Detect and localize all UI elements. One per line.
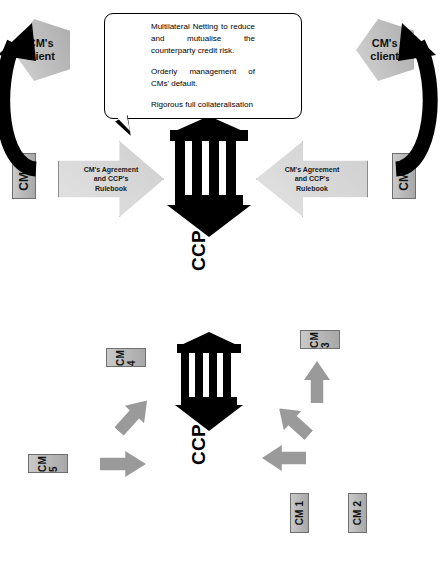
left-ccp-temple-icon: [174, 331, 244, 431]
benefits-callout: Multilateral Netting to reduce and mutua…: [104, 13, 302, 119]
temple-columns: [181, 353, 237, 397]
temple-shaft: [181, 397, 237, 407]
temple-roof: [175, 405, 243, 431]
right-ccp-temple-icon: [166, 117, 252, 237]
callout-item-3: Rigorous full collateralisation: [151, 99, 255, 111]
callout-text-group: Multilateral Netting to reduce and mutua…: [151, 21, 255, 111]
left-cm1-box[interactable]: CM 1: [290, 493, 309, 533]
left-panel-ccp-members: CCP CM 1 CM 2 CM 3 CM 4 CM 5: [0, 295, 447, 563]
left-cm5-box[interactable]: CM 5: [28, 454, 68, 473]
left-cm2-box[interactable]: CM 2: [348, 493, 367, 533]
left-cm4-box[interactable]: CM 4: [106, 348, 146, 367]
left-cm1-arrow: [262, 445, 306, 471]
diagram-canvas: CCP CM 1 CM 2 CM 3 CM 4 CM 5: [0, 0, 447, 563]
left-cm3-arrow: [304, 361, 330, 403]
curved-arrow-cm5-to-client: [0, 7, 78, 177]
temple-columns: [175, 141, 243, 195]
agreement-arrow-bottom-label: CM's Agreement and CCP's Rulebook: [285, 165, 340, 193]
right-panel-ccp-clients: CCP CM's Agreement and CCP's Rulebook: [0, 0, 447, 295]
agreement-arrow-top-label: CM's Agreement and CCP's Rulebook: [84, 165, 139, 193]
callout-inner: Multilateral Netting to reduce and mutua…: [105, 14, 301, 118]
callout-item-2: Orderly management of CMs' default.: [151, 66, 255, 90]
curved-arrow-cm1-to-client: [352, 7, 442, 177]
callout-item-1: Multilateral Netting to reduce and mutua…: [151, 21, 255, 57]
left-cm2-arrow: [270, 399, 317, 445]
rotated-figure: CCP CM 1 CM 2 CM 3 CM 4 CM 5: [0, 0, 447, 563]
temple-step: [179, 332, 239, 346]
left-cm3-box[interactable]: CM 3: [300, 330, 340, 349]
left-cm4-arrow: [109, 392, 156, 441]
temple-roof: [167, 205, 251, 237]
temple-shaft: [175, 195, 243, 207]
left-cm5-arrow: [100, 451, 146, 477]
